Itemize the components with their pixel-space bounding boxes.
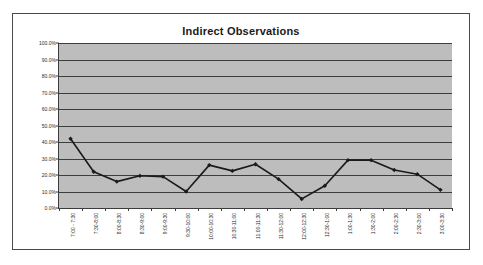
x-axis-tick-mark xyxy=(336,208,337,211)
x-axis-tick-label: 10:30-11:00 xyxy=(232,213,237,239)
x-axis-tick-mark xyxy=(313,208,314,211)
x-axis-tick-mark xyxy=(128,208,129,211)
y-axis-tick-label: 70.0% xyxy=(42,90,56,95)
x-axis-tick-mark xyxy=(290,208,291,211)
x-axis-tick-label: 9:30-10:00 xyxy=(186,213,191,237)
x-axis-tick-label: 1:00-1:30 xyxy=(347,213,352,234)
x-axis-tick-mark xyxy=(198,208,199,211)
x-axis-tick-mark xyxy=(360,208,361,211)
x-axis-tick-label: 3:00-3:30 xyxy=(440,213,445,234)
chart-page: Indirect Observations 100.0%90.0%80.0%70… xyxy=(0,0,483,265)
x-axis-tick-label: 8:30-9:00 xyxy=(139,213,144,234)
x-axis-tick-mark xyxy=(105,208,106,211)
y-axis-tick-label: 50.0% xyxy=(42,123,56,128)
data-series-line xyxy=(59,43,452,208)
y-axis-tick-label: 10.0% xyxy=(42,189,56,194)
x-axis-tick-mark xyxy=(59,208,60,211)
x-axis-tick-label: 7:00 - 7:30 xyxy=(70,213,75,237)
y-axis-tick-label: 20.0% xyxy=(42,173,56,178)
x-axis-tick-label: 11:30-12:00 xyxy=(278,213,283,239)
y-axis-tick-label: 30.0% xyxy=(42,156,56,161)
x-axis-tick-mark xyxy=(82,208,83,211)
data-point-marker xyxy=(138,174,142,178)
x-axis-tick-mark xyxy=(406,208,407,211)
chart-frame: Indirect Observations 100.0%90.0%80.0%70… xyxy=(12,13,470,250)
y-axis-tick-label: 90.0% xyxy=(42,57,56,62)
data-point-marker xyxy=(392,168,396,172)
x-axis-tick-mark xyxy=(429,208,430,211)
x-axis-tick-label: 2:00-2:30 xyxy=(394,213,399,234)
x-axis-tick-label: 9:00-9:30 xyxy=(163,213,168,234)
y-axis-tick-label: 80.0% xyxy=(42,74,56,79)
y-axis-tick-label: 40.0% xyxy=(42,140,56,145)
plot-area: 100.0%90.0%80.0%70.0%60.0%50.0%40.0%30.0… xyxy=(58,43,452,209)
x-axis-tick-label: 12:30-1:00 xyxy=(324,213,329,237)
x-axis-tick-label: 11:00-11:30 xyxy=(255,213,260,239)
x-axis-tick-mark xyxy=(452,208,453,211)
chart-title: Indirect Observations xyxy=(13,25,469,37)
x-axis-tick-mark xyxy=(221,208,222,211)
x-axis-tick-mark xyxy=(244,208,245,211)
x-axis-tick-mark xyxy=(175,208,176,211)
y-axis-tick-label: 60.0% xyxy=(42,107,56,112)
x-axis-tick-label: 12:00-12:30 xyxy=(301,213,306,240)
x-axis-tick-label: 1:30-2:00 xyxy=(371,213,376,234)
x-axis-tick-label: 2:30-3:00 xyxy=(417,213,422,234)
x-axis-tick-label: 10:00-10:30 xyxy=(209,213,214,240)
data-point-marker xyxy=(230,169,234,173)
x-axis-tick-mark xyxy=(383,208,384,211)
x-axis-tick-mark xyxy=(151,208,152,211)
y-axis-tick-label: 100.0% xyxy=(39,41,56,46)
x-axis-tick-mark xyxy=(267,208,268,211)
y-axis-tick-label: 0.0% xyxy=(45,206,56,211)
x-axis-tick-label: 8:00-8:30 xyxy=(116,213,121,234)
series-line xyxy=(71,139,441,199)
data-point-marker xyxy=(115,179,119,183)
data-point-marker xyxy=(369,158,373,162)
x-axis-tick-label: 7:30-8:00 xyxy=(93,213,98,234)
